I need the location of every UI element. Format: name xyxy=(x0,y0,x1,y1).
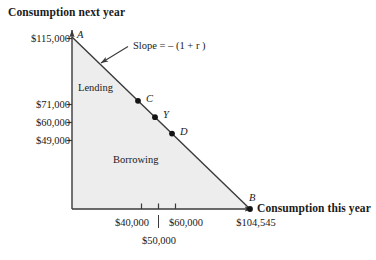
point-label-c: C xyxy=(146,94,153,105)
x-tick-label-40000: $40,000 xyxy=(115,218,149,229)
y-tick-label-115000: $115,000 xyxy=(31,34,70,45)
point-marker-y xyxy=(152,114,158,120)
point-marker-d xyxy=(169,131,175,137)
slope-annotation-pointer xyxy=(101,47,128,64)
point-label-d: D xyxy=(180,127,188,138)
y-tick-label-71000: $71,000 xyxy=(36,100,70,111)
region-label-borrowing: Borrowing xyxy=(113,155,159,166)
x-tick-label-60000: $60,000 xyxy=(169,218,203,229)
x-tick-label-104545: $104,545 xyxy=(236,218,275,229)
point-marker-c xyxy=(135,98,141,104)
point-label-a: A xyxy=(77,30,83,41)
x-axis-title: Consumption this year xyxy=(257,203,371,215)
point-label-y: Y xyxy=(163,110,169,121)
y-tick-label-60000: $60,000 xyxy=(36,118,70,129)
region-label-lending: Lending xyxy=(78,83,113,94)
consumption-budget-line-figure: Consumption next year xyxy=(0,0,376,260)
point-marker-b xyxy=(247,206,253,212)
slope-annotation: Slope = – (1 + r ) xyxy=(133,41,206,52)
y-tick-label-49000: $49,000 xyxy=(36,136,70,147)
x-tick-label-50000: $50,000 xyxy=(142,236,176,247)
point-label-b: B xyxy=(249,193,255,204)
